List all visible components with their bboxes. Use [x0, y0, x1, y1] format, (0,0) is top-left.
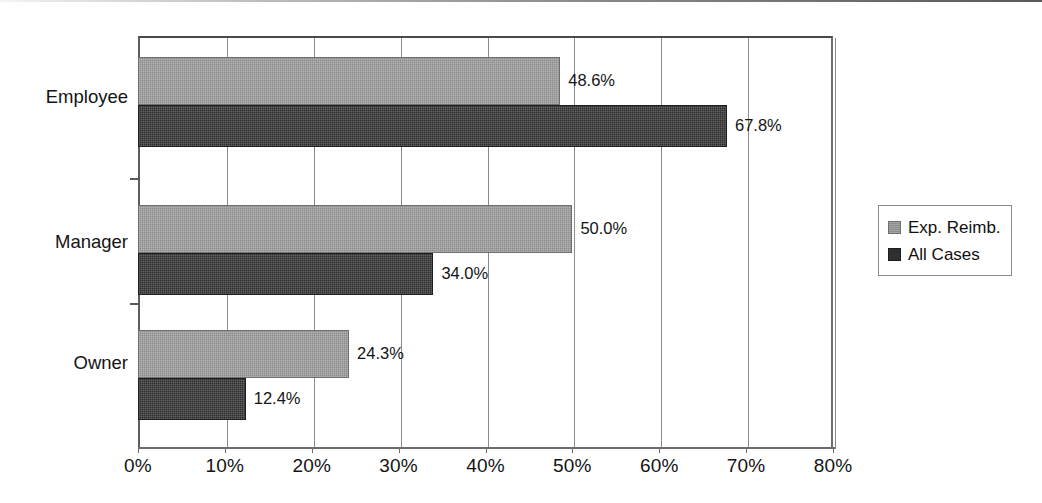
x-axis-tick-label: 10% [185, 455, 265, 477]
category-label-employee: Employee [0, 86, 128, 108]
x-axis-tick [746, 447, 747, 453]
x-axis-tick-label: 80% [793, 455, 873, 477]
x-axis-tick-label: 30% [359, 455, 439, 477]
legend-item-all-cases[interactable]: All Cases [888, 241, 1011, 268]
chart-legend: Exp. Reimb. All Cases [878, 205, 1012, 276]
x-axis-tick [225, 447, 226, 453]
x-axis-tick-label: 50% [532, 455, 612, 477]
category-axis-tick [130, 178, 139, 180]
chart-container: 0%10%20%30%40%50%60%70%80%EmployeeManage… [0, 0, 1042, 503]
bar-value-label-owner-exp-reimb: 24.3% [357, 344, 404, 363]
legend-label-all-cases: All Cases [908, 245, 980, 265]
bar-value-label-owner-all-cases: 12.4% [254, 389, 301, 408]
bar-employee-exp-reimb [138, 57, 560, 105]
x-axis-tick-label: 60% [619, 455, 699, 477]
x-axis-tick [833, 447, 834, 453]
bar-value-label-manager-all-cases: 34.0% [441, 264, 488, 283]
x-axis-tick [399, 447, 400, 453]
gridline-50 [574, 38, 575, 449]
x-axis-tick-label: 70% [706, 455, 786, 477]
bar-value-label-employee-all-cases: 67.8% [735, 116, 782, 135]
gridline-80 [835, 38, 836, 449]
bar-value-label-employee-exp-reimb: 48.6% [568, 71, 615, 90]
bar-owner-all-cases [138, 378, 246, 420]
legend-item-exp-reimb[interactable]: Exp. Reimb. [888, 214, 1011, 241]
category-label-owner: Owner [0, 352, 128, 374]
scan-edge-artifact [0, 0, 1042, 2]
gridline-60 [661, 38, 662, 449]
bar-value-label-manager-exp-reimb: 50.0% [580, 219, 627, 238]
x-axis-tick-label: 20% [272, 455, 352, 477]
bar-employee-all-cases [138, 105, 727, 147]
legend-swatch-icon-exp-reimb [888, 221, 901, 234]
x-axis-tick [138, 447, 139, 453]
x-axis-tick [486, 447, 487, 453]
x-axis-tick [572, 447, 573, 453]
bar-manager-exp-reimb [138, 205, 572, 253]
bar-owner-exp-reimb [138, 330, 349, 378]
category-axis-tick [130, 303, 139, 305]
x-axis-line [138, 447, 835, 449]
category-label-manager: Manager [0, 231, 128, 253]
x-axis-tick-label: 40% [446, 455, 526, 477]
x-axis-tick-label: 0% [98, 455, 178, 477]
gridline-70 [748, 38, 749, 449]
bar-manager-all-cases [138, 253, 433, 295]
x-axis-tick [312, 447, 313, 453]
legend-label-exp-reimb: Exp. Reimb. [908, 218, 1001, 238]
legend-swatch-icon-all-cases [888, 248, 901, 261]
x-axis-tick [659, 447, 660, 453]
